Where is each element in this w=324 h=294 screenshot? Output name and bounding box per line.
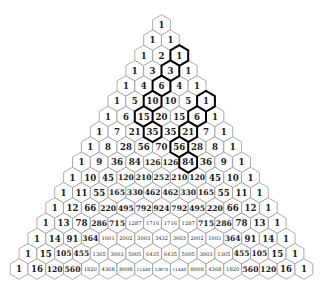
cell-value: 9 [96, 157, 102, 167]
cell-value: 35 [147, 127, 159, 137]
cell-value: 286 [91, 219, 107, 228]
cell-value: 1365 [93, 251, 106, 257]
cell-value: 56 [138, 142, 150, 152]
cell-value: 3003 [173, 235, 186, 241]
cell-value: 126 [145, 158, 161, 167]
cell-value: 1 [123, 81, 129, 91]
cell-value: 455 [234, 249, 250, 258]
cell-value: 4 [176, 81, 182, 91]
cell-value: 28 [191, 142, 203, 152]
cell-value: 1 [70, 173, 76, 183]
cell-value: 11 [236, 188, 248, 198]
cell-value: 15 [271, 249, 283, 259]
cell-value: 210 [171, 173, 187, 182]
cell-value: 5005 [182, 251, 195, 257]
cell-value: 220 [207, 204, 223, 213]
cell-value: 20 [156, 112, 168, 122]
cell-value: 3432 [155, 235, 168, 241]
hex-cells: 1111213114411510516201511721357118285670… [10, 15, 313, 280]
cell-value: 495 [118, 204, 134, 213]
cell-value: 560 [243, 265, 259, 274]
cell-value: 10 [164, 96, 176, 106]
cell-value: 1 [283, 234, 289, 244]
cell-value: 1 [159, 20, 165, 30]
cell-value: 7 [203, 127, 209, 137]
cell-value: 8 [212, 142, 218, 152]
cell-value: 35 [164, 127, 176, 137]
cell-value: 120 [260, 265, 276, 274]
cell-value: 2002 [119, 235, 132, 241]
cell-value: 9 [221, 157, 227, 167]
cell-value: 1 [167, 35, 173, 45]
cell-value: 21 [182, 127, 194, 137]
cell-value: 1001 [208, 235, 221, 241]
cell-value: 1365 [217, 251, 230, 257]
cell-value: 21 [129, 127, 141, 137]
cell-value: 286 [216, 219, 232, 228]
cell-value: 1 [176, 51, 182, 61]
cell-value: 84 [182, 157, 194, 167]
cell-value: 15 [173, 112, 185, 122]
cell-value: 1 [150, 35, 156, 45]
cell-value: 5 [185, 96, 191, 106]
cell-value: 105 [251, 249, 267, 258]
cell-value: 66 [84, 203, 96, 213]
cell-value: 1 [292, 249, 298, 259]
cell-value: 78 [236, 218, 248, 228]
cell-value: 4368 [101, 266, 114, 272]
highlighted-hex-cell: 84 [179, 152, 197, 173]
cell-value: 1 [301, 264, 307, 274]
cell-value: 330 [127, 188, 143, 197]
cell-value: 462 [145, 188, 161, 197]
cell-value: 792 [171, 204, 187, 213]
cell-value: 924 [154, 204, 170, 213]
cell-value: 10 [227, 173, 239, 183]
cell-value: 11440 [172, 267, 186, 272]
cell-value: 1 [105, 112, 111, 122]
cell-value: 1716 [164, 220, 177, 226]
cell-value: 1716 [146, 220, 159, 226]
cell-value: 36 [200, 157, 212, 167]
cell-value: 462 [162, 188, 178, 197]
highlighted-hex-cell: 35 [144, 121, 162, 142]
cell-value: 1 [43, 218, 49, 228]
cell-value: 1 [248, 173, 254, 183]
cell-value: 2 [159, 51, 165, 61]
cell-value: 91 [245, 234, 257, 244]
cell-value: 126 [162, 158, 178, 167]
cell-value: 120 [118, 173, 134, 182]
cell-value: 6435 [164, 251, 177, 257]
cell-value: 1 [96, 127, 102, 137]
cell-value: 8008 [190, 266, 203, 272]
cell-value: 3003 [137, 235, 150, 241]
cell-value: 8 [105, 142, 111, 152]
cell-value: 715 [198, 219, 214, 228]
cell-value: 455 [73, 249, 89, 258]
cell-value: 3 [167, 66, 173, 76]
cell-value: 252 [154, 173, 170, 182]
cell-value: 495 [189, 204, 205, 213]
cell-value: 78 [75, 218, 87, 228]
cell-value: 1287 [128, 220, 141, 226]
cell-value: 120 [189, 173, 205, 182]
cell-value: 1 [212, 112, 218, 122]
cell-value: 7 [114, 127, 120, 137]
cell-value: 120 [47, 265, 63, 274]
cell-value: 1 [239, 157, 245, 167]
cell-value: 364 [82, 234, 98, 243]
cell-value: 4 [141, 81, 147, 91]
cell-value: 1 [34, 234, 40, 244]
cell-value: 55 [93, 188, 105, 198]
cell-value: 1 [265, 203, 271, 213]
cell-value: 36 [111, 157, 123, 167]
cell-value: 56 [173, 142, 185, 152]
cell-value: 28 [120, 142, 132, 152]
cell-value: 12 [245, 203, 257, 213]
cell-value: 45 [209, 173, 221, 183]
cell-value: 105 [56, 249, 72, 258]
cell-value: 1 [256, 188, 262, 198]
cell-value: 1 [87, 142, 93, 152]
cell-value: 3003 [110, 251, 123, 257]
cell-value: 4368 [208, 266, 221, 272]
cell-value: 1820 [84, 266, 97, 272]
